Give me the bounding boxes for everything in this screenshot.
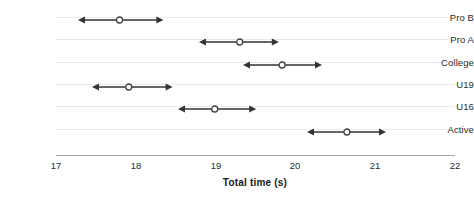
- plot-area: Pro B Pro A College U19 U16 Active 17 18…: [0, 0, 474, 199]
- interval-marker-college: [241, 57, 324, 68]
- arrowhead-left-pro-a: [199, 39, 206, 46]
- arrowhead-right-u19: [166, 84, 173, 91]
- arrowhead-left-u16: [178, 106, 185, 113]
- arrowhead-left-u19: [92, 84, 99, 91]
- interval-marker-u19: [90, 79, 175, 90]
- interval-marker-pro-a: [197, 34, 281, 45]
- point-marker-u16: [212, 106, 218, 112]
- interval-marker-u16: [176, 101, 258, 112]
- arrowhead-left-pro-b: [78, 17, 85, 24]
- arrowhead-left-college: [243, 62, 250, 69]
- arrowhead-right-pro-b: [157, 17, 164, 24]
- point-marker-pro-b: [117, 17, 123, 23]
- xtick-label-18: 18: [131, 160, 142, 171]
- category-label-u19: U19: [422, 79, 474, 90]
- arrowhead-right-active: [379, 129, 386, 136]
- category-label-pro-a: Pro A: [422, 34, 474, 45]
- arrowhead-left-active: [307, 129, 314, 136]
- category-label-active: Active: [422, 124, 474, 135]
- chart-container: Pro B Pro A College U19 U16 Active 17 18…: [0, 0, 474, 199]
- category-label-pro-b: Pro B: [422, 12, 474, 23]
- interval-marker-active: [305, 124, 388, 135]
- xtick-label-21: 21: [370, 160, 381, 171]
- point-marker-active: [343, 129, 349, 135]
- category-label-u16: U16: [422, 101, 474, 112]
- interval-marker-pro-b: [76, 12, 165, 23]
- point-marker-u19: [126, 84, 132, 90]
- xtick-label-20: 20: [290, 160, 301, 171]
- arrowhead-right-u16: [249, 106, 256, 113]
- point-marker-college: [279, 62, 285, 68]
- gridline-row-5: [56, 129, 455, 130]
- x-axis-line: [56, 155, 455, 156]
- point-marker-pro-a: [237, 39, 243, 45]
- arrowhead-right-college: [315, 62, 322, 69]
- xtick-label-17: 17: [51, 160, 62, 171]
- category-label-college: College: [422, 57, 474, 68]
- x-axis-title: Total time (s): [223, 177, 287, 188]
- xtick-label-22: 22: [450, 160, 461, 171]
- arrowhead-right-pro-a: [272, 39, 279, 46]
- xtick-label-19: 19: [211, 160, 222, 171]
